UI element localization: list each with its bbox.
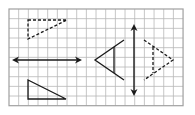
vertical-double-arrow [131,24,138,96]
left-solid-kite-triangle [95,40,124,80]
shapes-layer [12,20,173,99]
right-dashed-kite-triangle [144,40,173,80]
grid-lines [9,9,183,106]
reflection-grid-diagram [0,0,195,115]
